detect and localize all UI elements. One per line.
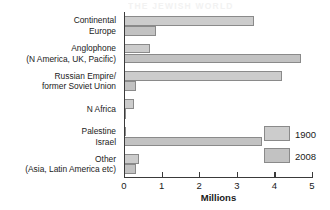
bar-1900-group-3: [124, 99, 134, 109]
x-tick-5: [312, 172, 313, 178]
page-bleed-through-text: THE JEWISH WORLD: [128, 1, 324, 10]
category-label-line: (Asia, Latin America etc): [25, 164, 116, 174]
x-tick-label-3: 3: [234, 180, 239, 191]
category-label-2: Russian Empire/former Soviet Union: [42, 71, 116, 92]
category-label-line: Europe: [74, 26, 116, 36]
category-label-1: Anglophone(N America, UK, Pacific): [26, 43, 116, 64]
x-tick-label-0: 0: [121, 180, 126, 191]
x-tick-3: [237, 172, 238, 178]
legend-swatch-1900: [264, 126, 290, 141]
category-label-line: Anglophone: [26, 43, 116, 53]
category-label-line: Israel: [82, 137, 116, 147]
legend-label-1900: 1900: [295, 129, 316, 140]
bar-1900-group-5: [124, 154, 139, 164]
category-label-line: Palestine: [82, 126, 116, 136]
category-label-line: Other: [25, 154, 116, 164]
y-axis-line: [124, 12, 125, 178]
category-axis-labels: ContinentalEuropeAnglophone(N America, U…: [0, 12, 120, 178]
bar-2008-group-4: [124, 137, 262, 147]
bar-2008-group-0: [124, 26, 156, 36]
category-label-line: Russian Empire/: [42, 71, 116, 81]
x-tick-2: [199, 172, 200, 178]
x-tick-label-4: 4: [272, 180, 277, 191]
category-label-3: N Africa: [87, 104, 116, 114]
category-label-line: N Africa: [87, 104, 116, 114]
bar-2008-group-2: [124, 81, 136, 91]
category-label-line: Continental: [74, 15, 116, 25]
category-label-line: former Soviet Union: [42, 81, 116, 91]
x-axis-title: Millions: [124, 192, 313, 203]
category-label-line: (N America, UK, Pacific): [26, 54, 116, 64]
x-tick-label-5: 5: [309, 180, 314, 191]
x-tick-label-1: 1: [159, 180, 164, 191]
x-tick-1: [162, 172, 163, 178]
bar-1900-group-1: [124, 44, 150, 54]
category-label-5: Other(Asia, Latin America etc): [25, 154, 116, 175]
bar-2008-group-1: [124, 54, 301, 64]
legend-swatch-2008: [264, 148, 290, 163]
bar-chart: THE JEWISH WORLD ContinentalEuropeAnglop…: [0, 0, 330, 210]
x-axis-line: [124, 177, 313, 178]
x-tick-label-2: 2: [197, 180, 202, 191]
x-tick-0: [124, 172, 125, 178]
bar-1900-group-2: [124, 71, 282, 81]
legend-label-2008: 2008: [295, 151, 316, 162]
bar-2008-group-5: [124, 164, 136, 174]
category-label-4: PalestineIsrael: [82, 126, 116, 147]
category-label-0: ContinentalEurope: [74, 15, 116, 36]
x-tick-4: [274, 172, 275, 178]
bar-1900-group-0: [124, 16, 254, 26]
